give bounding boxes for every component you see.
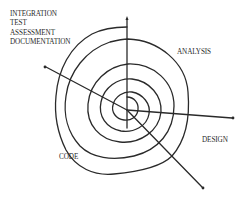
arrowhead-right-icon bbox=[232, 117, 235, 120]
axis-down-right bbox=[127, 110, 202, 187]
axis-up-left bbox=[46, 67, 127, 110]
arrowhead-up-left-icon bbox=[44, 66, 47, 69]
integration-phase-labels: INTEGRATION TEST ASSESSMENT DOCUMENTATIO… bbox=[10, 10, 70, 47]
axis-right bbox=[127, 110, 232, 118]
label-code: CODE bbox=[59, 153, 78, 162]
label-analysis: ANALYSIS bbox=[177, 48, 211, 57]
label-documentation: DOCUMENTATION bbox=[10, 38, 70, 47]
label-integration: INTEGRATION bbox=[10, 10, 70, 19]
arrowhead-down-right-icon bbox=[202, 187, 205, 190]
label-design: DESIGN bbox=[202, 136, 228, 145]
spiral-diagram: INTEGRATION TEST ASSESSMENT DOCUMENTATIO… bbox=[0, 0, 242, 198]
arrowhead-up-icon bbox=[126, 16, 129, 20]
label-test: TEST bbox=[10, 19, 70, 28]
label-assessment: ASSESSMENT bbox=[10, 29, 70, 38]
